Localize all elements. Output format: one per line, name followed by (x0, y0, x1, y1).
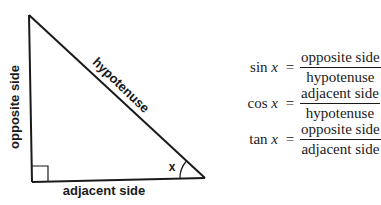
equals-sign: = (280, 131, 300, 148)
adjacent-side-line (32, 178, 205, 182)
denominator: hypotenuse (306, 68, 374, 85)
tan-formula: tan x = opposite side adjacent side (226, 121, 381, 157)
numerator: adjacent side (300, 86, 380, 104)
opposite-side-line (29, 15, 32, 182)
variable: x (271, 59, 278, 75)
formula-lhs: sin x (226, 59, 280, 76)
numerator: opposite side (300, 122, 381, 140)
angle-label: x (169, 161, 176, 173)
right-angle-marker-icon (32, 166, 48, 182)
hypotenuse-line (29, 15, 205, 178)
formula-lhs: tan x (226, 131, 280, 148)
denominator: adjacent side (301, 140, 379, 157)
adjacent-side-label: adjacent side (63, 184, 145, 197)
equals-sign: = (280, 95, 300, 112)
variable: x (271, 95, 278, 111)
sin-formula: sin x = opposite side hypotenuse (226, 49, 381, 85)
denominator: hypotenuse (306, 104, 374, 121)
fraction: opposite side hypotenuse (300, 50, 381, 85)
variable: x (271, 131, 278, 147)
opposite-side-label: opposite side (8, 65, 21, 149)
function-name: sin (250, 59, 268, 75)
function-name: tan (249, 131, 267, 147)
fraction: opposite side adjacent side (300, 122, 381, 157)
cos-formula: cos x = adjacent side hypotenuse (226, 85, 380, 121)
formula-lhs: cos x (226, 95, 280, 112)
angle-arc-icon (180, 161, 187, 179)
fraction: adjacent side hypotenuse (300, 86, 380, 121)
numerator: opposite side (300, 50, 381, 68)
equals-sign: = (280, 59, 300, 76)
function-name: cos (248, 95, 268, 111)
